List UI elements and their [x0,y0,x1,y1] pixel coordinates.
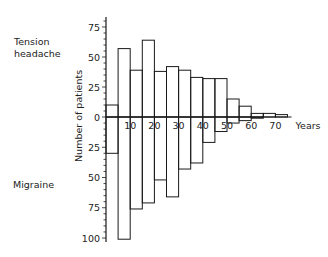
bar-tension [142,40,154,117]
x-tick-label: 10 [124,120,136,131]
bar-tension [130,70,142,117]
bar-tension [215,79,227,117]
bar-tension [179,70,191,117]
y-tick-label: 75 [88,202,100,213]
y-tick-label: 50 [88,52,100,63]
y-tick-label: 50 [88,172,100,183]
y-tick-label: 0 [94,112,100,123]
y-tick-label: 25 [88,82,100,93]
y-tick-label: 75 [88,22,100,33]
bar-tension [118,49,130,117]
bar-tension [154,71,166,117]
bar-tension [106,105,118,117]
x-tick-label: 50 [221,120,233,131]
x-tick-label: 60 [245,120,257,131]
x-tick-label: 20 [148,120,160,131]
bar-tension [203,79,215,117]
x-axis-unit-label: Years [295,120,321,131]
x-tick-label: 70 [269,120,281,131]
series-label-tension-line2: headache [14,48,61,60]
bar-tension [227,99,239,117]
x-tick-label: 30 [173,120,185,131]
series-label-tension-line1: Tension [14,36,61,48]
series-label-migraine: Migraine [13,179,54,191]
y-axis-label: Number of patients [73,70,84,162]
x-tick-label: 40 [197,120,209,131]
bar-tension [191,77,203,117]
series-label-tension: Tension headache [14,36,61,60]
bar-tension [167,67,179,117]
y-tick-label: 100 [82,233,100,244]
bar-migraine [106,117,118,153]
bar-migraine [118,117,130,239]
bar-tension [239,106,251,117]
y-tick-label: 25 [88,142,100,153]
